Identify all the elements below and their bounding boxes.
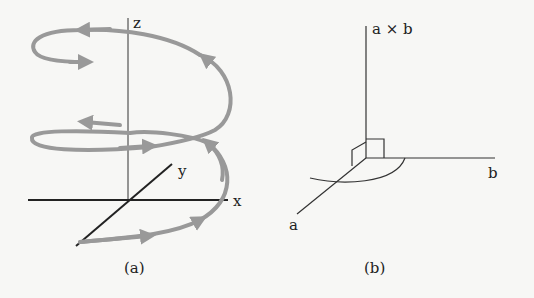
right-angle-marker-a [352, 142, 366, 166]
helix-curve [32, 29, 231, 242]
a-label: a [289, 216, 298, 234]
figure-b [297, 26, 495, 214]
x-axis-label: x [233, 192, 242, 210]
figure-canvas: z y x (a) a × b b a (b) [0, 0, 534, 298]
cross-product-label: a × b [372, 20, 413, 38]
caption-a: (a) [124, 259, 145, 277]
right-angle-marker-b [366, 139, 384, 158]
figure-a: z y x (a) [28, 14, 242, 277]
a-vector [297, 158, 366, 214]
b-label: b [488, 164, 498, 182]
z-axis-label: z [133, 14, 141, 32]
caption-b: (b) [364, 259, 385, 277]
angle-arc [310, 158, 405, 182]
y-axis-label: y [177, 162, 187, 180]
